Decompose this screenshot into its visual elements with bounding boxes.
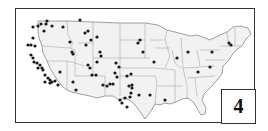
data-point <box>148 93 151 96</box>
data-point <box>43 80 46 83</box>
data-point <box>210 50 213 53</box>
data-point <box>68 40 71 43</box>
data-point <box>229 43 232 46</box>
data-point <box>48 81 51 84</box>
data-point <box>86 63 89 66</box>
data-point <box>98 50 101 53</box>
data-point <box>95 35 98 38</box>
data-point <box>118 98 121 101</box>
data-point <box>35 61 38 64</box>
panel-label: 4 <box>221 89 256 124</box>
data-point <box>117 65 120 68</box>
us-map <box>15 8 255 123</box>
data-point <box>141 50 144 53</box>
data-point <box>137 93 140 96</box>
data-point <box>88 66 91 69</box>
data-point <box>45 19 48 22</box>
data-point <box>78 18 81 21</box>
data-point <box>130 83 133 86</box>
data-point <box>33 44 36 47</box>
data-point <box>71 80 74 83</box>
data-point <box>108 82 111 85</box>
data-point <box>89 38 92 41</box>
data-point <box>86 29 89 32</box>
data-point <box>136 41 139 44</box>
data-point <box>175 56 178 59</box>
data-point <box>152 60 155 63</box>
data-point <box>113 71 116 74</box>
data-point <box>36 24 39 27</box>
data-point <box>120 101 123 104</box>
data-point <box>84 43 87 46</box>
data-point <box>127 84 130 87</box>
data-point <box>38 63 41 66</box>
data-point <box>58 70 61 73</box>
data-point <box>26 43 29 46</box>
data-point <box>99 54 102 57</box>
data-point <box>95 60 98 63</box>
data-point <box>130 86 133 89</box>
data-point <box>196 70 199 73</box>
data-point <box>31 25 34 28</box>
data-point <box>29 43 32 46</box>
data-point <box>71 52 74 55</box>
data-point <box>74 88 77 91</box>
data-point <box>138 38 141 41</box>
data-point <box>53 79 56 82</box>
data-point <box>94 73 97 76</box>
data-point <box>42 29 45 32</box>
data-point <box>29 53 32 56</box>
data-point <box>31 36 34 39</box>
data-point <box>83 31 86 34</box>
data-point <box>128 95 131 98</box>
data-point <box>61 25 64 28</box>
data-point <box>123 96 126 99</box>
data-point <box>129 72 132 75</box>
data-point <box>114 61 117 64</box>
data-point <box>43 73 46 76</box>
data-point <box>129 91 132 94</box>
panel-label-text: 4 <box>234 95 244 118</box>
data-point <box>208 65 211 68</box>
data-point <box>31 56 34 59</box>
data-point <box>90 73 93 76</box>
data-point <box>36 66 39 69</box>
data-point <box>56 83 59 86</box>
data-point <box>101 83 104 86</box>
data-point <box>115 75 118 78</box>
data-point <box>125 74 128 77</box>
data-point <box>125 105 128 108</box>
data-point <box>39 22 42 25</box>
data-point <box>41 68 44 71</box>
data-point <box>44 22 47 25</box>
data-point <box>105 84 108 87</box>
data-point <box>111 82 114 85</box>
data-point <box>186 50 189 53</box>
us-outline <box>38 21 251 119</box>
data-point <box>32 60 35 63</box>
data-point <box>163 98 166 101</box>
data-point <box>50 24 53 27</box>
